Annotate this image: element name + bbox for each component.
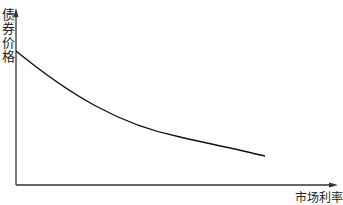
y-label-char: 债	[2, 8, 16, 22]
y-label-char: 价	[2, 36, 16, 50]
y-label-char: 格	[2, 50, 16, 64]
price-yield-curve	[16, 51, 265, 156]
y-axis-label: 债 券 价 格	[2, 8, 16, 64]
x-axis-arrow-icon	[329, 183, 338, 188]
y-label-char: 券	[2, 22, 16, 36]
x-axis-label: 市场利率	[295, 188, 343, 205]
